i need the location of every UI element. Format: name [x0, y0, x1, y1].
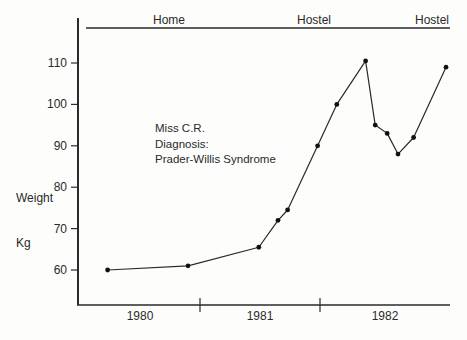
y-axis-title-line-1: Weight [16, 191, 53, 206]
y-tick-label: 60 [54, 263, 68, 277]
weight-data-point [363, 59, 368, 64]
weight-data-point [334, 102, 339, 107]
patient-name: Miss C.R. [155, 121, 276, 137]
x-year-label: 1980 [127, 309, 154, 323]
weight-data-point [256, 245, 261, 250]
diagnosis-value: Prader-Willis Syndrome [155, 152, 276, 168]
weight-chart-figure: 11010090807060198019811982HomeHostelHost… [0, 0, 467, 340]
patient-annotation: Miss C.R. Diagnosis: Prader-Willis Syndr… [155, 121, 276, 168]
weight-data-point [276, 218, 281, 223]
y-tick-label: 110 [48, 56, 67, 70]
weight-data-point [373, 123, 378, 128]
chart-canvas: 11010090807060198019811982HomeHostelHost… [0, 0, 467, 340]
y-tick-label: 100 [47, 97, 67, 111]
weight-data-point [105, 268, 110, 273]
y-tick-label: 70 [54, 222, 68, 236]
x-year-label: 1982 [372, 309, 399, 323]
diagnosis-label: Diagnosis: [155, 137, 276, 153]
y-tick-label: 80 [54, 180, 68, 194]
weight-data-point [186, 263, 191, 268]
phase-label: Home [153, 13, 185, 27]
y-tick-label: 90 [54, 139, 68, 153]
weight-data-point [444, 65, 449, 70]
weight-data-point [285, 208, 290, 213]
weight-data-point [315, 143, 320, 148]
phase-label: Hostel [297, 13, 331, 27]
weight-data-point [411, 135, 416, 140]
weight-data-point [396, 152, 401, 157]
weight-data-point [385, 131, 390, 136]
y-axis-title: Weight Kg [16, 161, 53, 281]
phase-label: Hostel [415, 13, 449, 27]
x-year-label: 1981 [247, 309, 274, 323]
y-axis-title-line-2: Kg [16, 236, 53, 251]
